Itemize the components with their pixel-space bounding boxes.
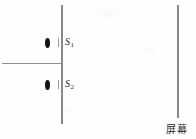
slit-label-s2-subscript: 2 [70, 83, 74, 91]
screen-caption-label: 屏幕 [166, 121, 187, 136]
youngs-double-slit-figure: S1 S2 屏幕 [0, 0, 196, 139]
slit-label-s1-subscript: 1 [70, 41, 74, 49]
leader-tick-s1 [58, 38, 59, 47]
paper-texture-overlay [0, 0, 196, 139]
incident-beam-axis-line [2, 63, 62, 64]
slit-aperture-s2 [45, 80, 50, 90]
slit-label-s1: S1 [65, 36, 74, 49]
slit-aperture-s1 [45, 38, 50, 48]
viewing-screen-line [177, 5, 179, 118]
slit-plate-line [61, 5, 63, 124]
leader-tick-s2 [58, 80, 59, 89]
slit-label-s2: S2 [65, 78, 74, 91]
